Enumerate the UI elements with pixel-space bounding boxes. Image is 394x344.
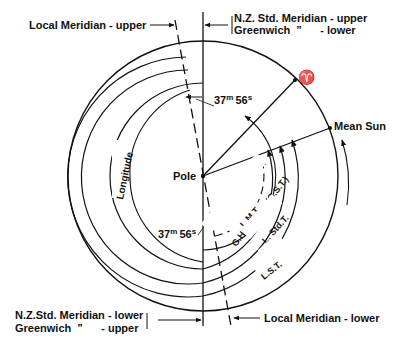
pole-dot (201, 174, 205, 178)
label-nz-std-meridian-lower: N.Z.Std. Meridian - lower (15, 309, 144, 321)
time-diagram: Local Meridian - upper N.Z. Std. Meridia… (0, 0, 394, 344)
label-greenwich-lower: Greenwich ” - lower (234, 24, 356, 36)
label-interval-lower: 37m56s (158, 227, 197, 240)
interval-upper-sec-unit: s (248, 93, 253, 102)
mean-sun-line (203, 128, 330, 176)
interval-upper-min-unit: m (226, 93, 233, 102)
label-aries-symbol: ♈ (298, 69, 315, 86)
label-mean-sun: Mean Sun (334, 120, 386, 132)
label-local-meridian-lower: Local Meridian - lower (264, 312, 380, 324)
label-nz-std-meridian-upper: N.Z. Std. Meridian - upper (234, 12, 368, 24)
interval-upper-min: 37 (214, 94, 226, 106)
rotation-arrow (342, 140, 349, 205)
aries-dot (293, 78, 297, 82)
label-interval-upper: 37m56s (214, 93, 253, 106)
interval-lower-sec-unit: s (192, 227, 197, 236)
mean-sun-dot (328, 126, 332, 130)
label-greenwich-upper: Greenwich ” - upper (15, 322, 139, 334)
interval-leader-upper (196, 99, 214, 106)
interval-lower-min-unit: m (170, 227, 177, 236)
label-local-meridian-upper: Local Meridian - upper (29, 19, 147, 31)
interval-lower-sec: 56 (179, 228, 191, 240)
interval-lower-min: 37 (158, 228, 170, 240)
label-pole: Pole (173, 170, 196, 182)
interval-upper-sec: 56 (235, 94, 247, 106)
